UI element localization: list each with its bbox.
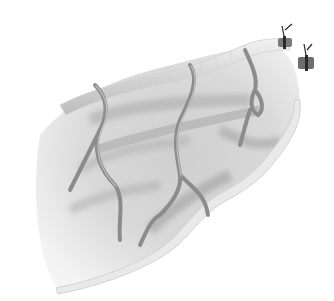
ligature-upper [278, 24, 292, 49]
left-fade [0, 60, 120, 301]
anatomical-illustration [0, 0, 334, 301]
ligature-lower [298, 44, 314, 71]
